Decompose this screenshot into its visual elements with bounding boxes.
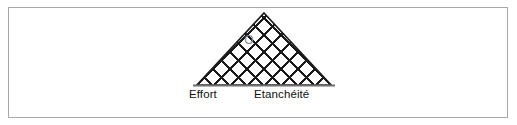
marker-o-label: O: [244, 33, 253, 47]
triangle-fill: [197, 13, 331, 85]
axis-label-etancheite: Etanchéité: [254, 88, 309, 101]
axis-label-effort: Effort: [189, 88, 217, 101]
figure-root: O Effort Etanchéité: [0, 0, 517, 125]
lattice-triangle-diagram: O: [0, 0, 517, 125]
